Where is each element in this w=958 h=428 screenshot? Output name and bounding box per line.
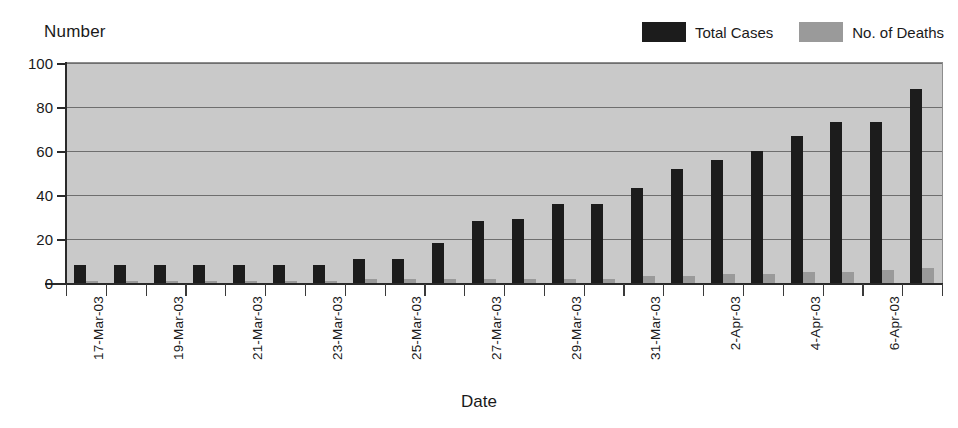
x-tick-label: 21-Mar-03 xyxy=(250,296,265,360)
x-tick-mark xyxy=(902,284,903,296)
y-tick-mark-0 xyxy=(57,283,66,285)
x-tick-mark xyxy=(584,284,585,296)
bar-total-cases[interactable] xyxy=(671,169,683,283)
legend-label: Total Cases xyxy=(695,24,773,41)
bar-group[interactable] xyxy=(862,63,902,283)
legend-label: No. of Deaths xyxy=(852,24,944,41)
bar-group-container xyxy=(66,63,942,283)
legend-item-2: No. of Deaths xyxy=(799,22,944,42)
bar-group[interactable] xyxy=(385,63,425,283)
x-tick-label: 19-Mar-03 xyxy=(171,296,186,360)
y-tick-mark-40 xyxy=(57,195,66,197)
y-tick-mark-80 xyxy=(57,107,66,109)
bar-total-cases[interactable] xyxy=(273,265,285,283)
plot-border-right xyxy=(942,62,943,284)
bar-total-cases[interactable] xyxy=(512,219,524,283)
bar-total-cases[interactable] xyxy=(791,136,803,283)
bar-total-cases[interactable] xyxy=(233,265,245,283)
bar-group[interactable] xyxy=(106,63,146,283)
chart-root: Number Total CasesNo. of Deaths 02040608… xyxy=(0,0,958,428)
bar-deaths[interactable] xyxy=(683,276,695,283)
x-tick-label: 2-Apr-03 xyxy=(728,296,743,350)
bar-deaths[interactable] xyxy=(643,276,655,283)
x-tick-label: 23-Mar-03 xyxy=(330,296,345,360)
y-tick-label-100: 100 xyxy=(28,55,53,72)
bar-group[interactable] xyxy=(225,63,265,283)
legend-swatch xyxy=(642,22,686,42)
x-tick-mark xyxy=(504,284,505,296)
x-tick-mark xyxy=(146,284,147,296)
chart-legend: Total CasesNo. of Deaths xyxy=(642,22,944,42)
legend-item-1: Total Cases xyxy=(642,22,773,42)
bar-group[interactable] xyxy=(464,63,504,283)
bar-total-cases[interactable] xyxy=(751,151,763,283)
bar-total-cases[interactable] xyxy=(353,259,365,283)
bar-total-cases[interactable] xyxy=(74,265,86,283)
bar-total-cases[interactable] xyxy=(830,122,842,283)
bar-group[interactable] xyxy=(663,63,703,283)
x-tick-mark xyxy=(743,284,744,296)
x-tick-mark xyxy=(623,284,624,296)
bar-deaths[interactable] xyxy=(763,274,775,283)
x-tick-mark xyxy=(663,284,664,296)
bar-group[interactable] xyxy=(902,63,942,283)
x-tick-label: 17-Mar-03 xyxy=(91,296,106,360)
y-tick-label-40: 40 xyxy=(36,187,53,204)
bar-total-cases[interactable] xyxy=(432,243,444,283)
x-tick-label: 31-Mar-03 xyxy=(648,296,663,360)
y-tick-label-60: 60 xyxy=(36,143,53,160)
bar-total-cases[interactable] xyxy=(392,259,404,283)
bar-total-cases[interactable] xyxy=(711,160,723,283)
x-tick-mark xyxy=(783,284,784,296)
bar-total-cases[interactable] xyxy=(154,265,166,283)
bar-total-cases[interactable] xyxy=(114,265,126,283)
bar-group[interactable] xyxy=(66,63,106,283)
x-tick-label: 4-Apr-03 xyxy=(808,296,823,350)
bar-deaths[interactable] xyxy=(723,274,735,283)
bar-group[interactable] xyxy=(544,63,584,283)
x-tick-mark xyxy=(862,284,863,296)
y-tick-mark-60 xyxy=(57,151,66,153)
bar-deaths[interactable] xyxy=(882,270,894,283)
bar-group[interactable] xyxy=(265,63,305,283)
bar-group[interactable] xyxy=(822,63,862,283)
bar-deaths[interactable] xyxy=(842,272,854,283)
bar-group[interactable] xyxy=(584,63,624,283)
x-axis-ticks xyxy=(66,284,942,296)
bar-deaths[interactable] xyxy=(922,268,934,283)
x-tick-label: 25-Mar-03 xyxy=(409,296,424,360)
x-tick-mark xyxy=(265,284,266,296)
y-axis-title: Number xyxy=(44,22,106,42)
bar-group[interactable] xyxy=(703,63,743,283)
x-tick-label: 29-Mar-03 xyxy=(569,296,584,360)
bar-group[interactable] xyxy=(623,63,663,283)
bar-group[interactable] xyxy=(345,63,385,283)
x-tick-mark xyxy=(345,284,346,296)
bar-group[interactable] xyxy=(305,63,345,283)
bar-total-cases[interactable] xyxy=(631,188,643,283)
bar-group[interactable] xyxy=(185,63,225,283)
x-tick-mark xyxy=(106,284,107,296)
bar-total-cases[interactable] xyxy=(472,221,484,283)
bar-group[interactable] xyxy=(424,63,464,283)
bar-deaths[interactable] xyxy=(803,272,815,283)
bar-group[interactable] xyxy=(743,63,783,283)
bar-total-cases[interactable] xyxy=(313,265,325,283)
y-tick-mark-100 xyxy=(57,63,66,65)
x-tick-mark xyxy=(464,284,465,296)
bar-group[interactable] xyxy=(146,63,186,283)
bar-group[interactable] xyxy=(783,63,823,283)
x-tick-label: 27-Mar-03 xyxy=(489,296,504,360)
bar-total-cases[interactable] xyxy=(591,204,603,283)
x-tick-mark xyxy=(385,284,386,296)
x-axis-title: Date xyxy=(0,392,958,412)
bar-total-cases[interactable] xyxy=(870,122,882,283)
bar-total-cases[interactable] xyxy=(910,89,922,283)
bar-total-cases[interactable] xyxy=(193,265,205,283)
y-axis-line xyxy=(65,62,67,284)
bar-total-cases[interactable] xyxy=(552,204,564,283)
x-tick-mark xyxy=(424,284,425,296)
y-tick-label-80: 80 xyxy=(36,99,53,116)
bar-group[interactable] xyxy=(504,63,544,283)
y-tick-label-20: 20 xyxy=(36,231,53,248)
